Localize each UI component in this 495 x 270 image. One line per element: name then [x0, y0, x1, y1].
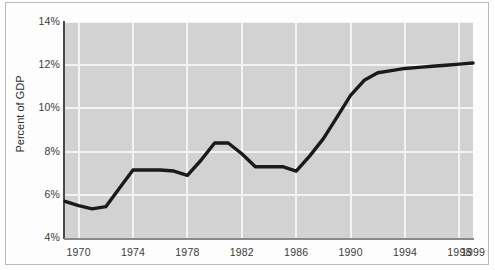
x-tick-label: 1974 [121, 246, 145, 258]
y-axis-line [63, 21, 65, 239]
gridline-vertical [132, 22, 134, 238]
gridline-horizontal [65, 64, 473, 66]
x-tick-label: 1999 [461, 246, 485, 258]
gridline-vertical [295, 22, 297, 238]
plot-wrapper: 4%6%8%10%12%14% 197019741978198219861990… [0, 0, 495, 270]
y-tick-label: 8% [4, 145, 60, 157]
x-tick-label: 1982 [230, 246, 254, 258]
y-tick-label: 10% [4, 101, 60, 113]
gridline-horizontal [65, 107, 473, 109]
x-tick-label: 1970 [67, 246, 91, 258]
gridline-horizontal [65, 22, 473, 23]
y-tick-label: 4% [4, 231, 60, 243]
y-tick-label: 12% [4, 58, 60, 70]
x-axis-line [64, 238, 474, 240]
x-tick-label: 1990 [339, 246, 363, 258]
y-tick-label: 6% [4, 188, 60, 200]
plot-area [65, 22, 473, 238]
gridline-vertical [404, 22, 406, 238]
gridline-vertical [186, 22, 188, 238]
x-tick-label: 1986 [284, 246, 308, 258]
gridline-horizontal [65, 151, 473, 153]
y-tick-label: 14% [4, 15, 60, 27]
chart-figure: 4%6%8%10%12%14% 197019741978198219861990… [0, 0, 495, 270]
x-tick-label: 1978 [175, 246, 199, 258]
gridline-vertical [241, 22, 243, 238]
gridline-horizontal [65, 194, 473, 196]
y-axis-tick-labels: 4%6%8%10%12%14% [0, 0, 60, 270]
gridline-vertical [78, 22, 80, 238]
y-axis-title: Percent of GDP [14, 49, 26, 179]
x-tick-label: 1994 [393, 246, 417, 258]
gridline-vertical [458, 22, 460, 238]
gridline-vertical [350, 22, 352, 238]
